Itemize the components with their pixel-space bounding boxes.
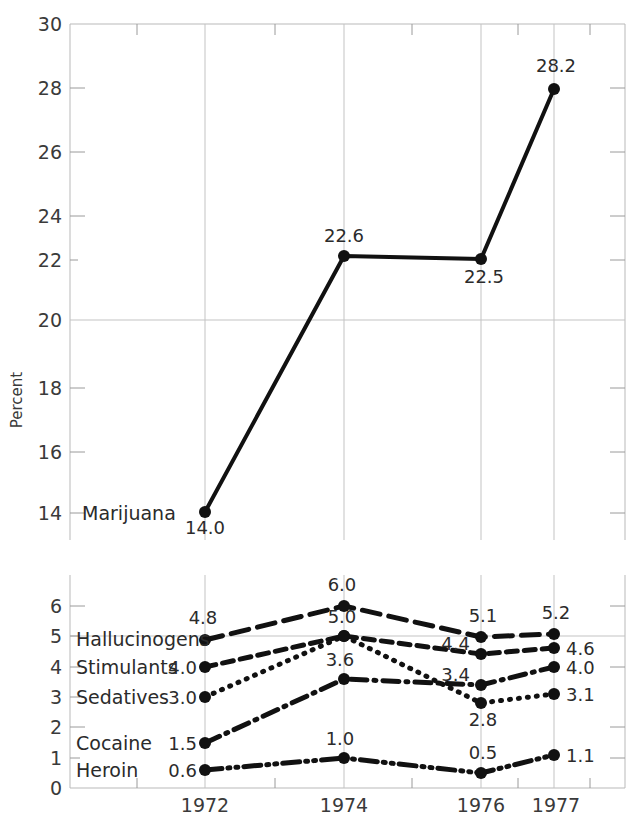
value-label-hallucinogens-1974: 6.0 [328,574,357,595]
series-line-marijuana [205,89,554,512]
series-label-hallucinogens: Hallucinogens [76,628,210,650]
top-ytick-18: 18 [38,377,62,399]
top-ytick-24: 24 [38,205,62,227]
value-label-sedatives-1976: 2.8 [469,709,498,730]
bottom-ytick-1: 1 [50,747,62,769]
xtick-1976: 1976 [457,794,505,816]
bottom-ytick-6: 6 [50,595,62,617]
xtick-1974: 1974 [320,794,368,816]
value-label-sedatives-1977: 3.1 [566,684,595,705]
value-label-stimulants-1976: 4.4 [441,633,470,654]
top-left-ticks [70,88,85,513]
value-label-marijuana-1977: 28.2 [536,55,576,76]
value-label-hallucinogens-1972: 4.8 [189,607,218,628]
value-label-stimulants-1972: 4.0 [168,657,197,678]
series-line-cocaine [205,667,554,743]
top-ytick-22: 22 [38,249,62,271]
value-label-cocaine-1974: 3.6 [326,649,355,670]
value-label-hallucinogens-1977: 5.2 [542,602,571,623]
top-ytick-14: 14 [38,502,62,524]
y-axis-title: Percent [8,372,26,429]
top-ytick-16: 16 [38,441,62,463]
value-label-heroin-1977: 1.1 [566,745,595,766]
series-line-hallucinogens [205,606,554,640]
value-label-cocaine-1972: 1.5 [168,733,197,754]
bottom-ytick-0: 0 [50,777,62,799]
bottom-ytick-5: 5 [50,625,62,647]
series-points-marijuana [199,83,560,518]
series-line-sedatives [205,636,554,703]
value-label-heroin-1974: 1.0 [326,728,355,749]
value-label-cocaine-1977: 4.0 [566,657,595,678]
top-right-ticks [610,88,625,513]
xtick-1972: 1972 [181,794,229,816]
xtick-1977: 1977 [532,794,580,816]
value-label-sedatives-1972: 3.0 [168,687,197,708]
value-label-marijuana-1974: 22.6 [324,225,364,246]
bottom-panel: 6 5 4 3 2 1 0 [50,574,625,816]
top-ytick-20: 20 [38,309,62,331]
series-line-heroin [205,755,554,773]
top-panel: 30 28 26 24 22 20 18 16 14 Percent Marij… [8,13,625,540]
top-ytick-28: 28 [38,77,62,99]
bottom-right-ticks [610,606,625,758]
value-label-hallucinogens-1976: 5.1 [469,605,498,626]
series-label-heroin: Heroin [76,759,138,781]
top-ytick-30: 30 [38,13,62,35]
value-label-stimulants-sedatives-1974: 5.0 [328,606,357,627]
series-label-stimulants: Stimulants [76,656,178,678]
series-label-sedatives: Sedatives [76,686,169,708]
bottom-ytick-2: 2 [50,716,62,738]
value-label-stimulants-1977: 4.6 [566,638,595,659]
figure-canvas: 30 28 26 24 22 20 18 16 14 Percent Marij… [0,0,638,825]
value-label-marijuana-1972: 14.0 [185,517,225,538]
value-label-cocaine-1976: 3.4 [441,664,470,685]
value-label-marijuana-1976: 22.5 [464,266,504,287]
series-label-cocaine: Cocaine [76,732,152,754]
value-label-heroin-1972: 0.6 [168,760,197,781]
top-ytick-26: 26 [38,141,62,163]
bottom-ytick-4: 4 [50,656,62,678]
bottom-ytick-3: 3 [50,686,62,708]
series-points-hallucinogens [199,600,560,646]
two-panel-line-chart: 30 28 26 24 22 20 18 16 14 Percent Marij… [0,0,638,825]
value-label-heroin-1976: 0.5 [469,742,498,763]
series-label-marijuana: Marijuana [82,502,176,524]
